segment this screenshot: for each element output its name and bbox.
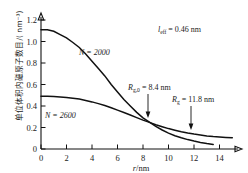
x-tick-label-2: 2 (64, 153, 68, 163)
rg0-value: = 8.4 nm (140, 83, 172, 92)
x-tick-label-12: 12 (190, 153, 199, 163)
chart-figure: 单位体积内磁原子数目/( nm⁻³) 0 0.2 0.4 0.6 0.8 1.0 (0, 0, 248, 173)
x-tick-label-8: 8 (141, 153, 145, 163)
x-axis-label: r/nm (133, 163, 150, 173)
l-eff-value: = 0.46 nm (166, 25, 202, 34)
chart-canvas: 0 0.2 0.4 0.6 0.8 1.0 1.2 0 2 4 6 8 10 (0, 0, 248, 173)
x-tick-label-6: 6 (115, 153, 119, 163)
y-tick-label-0.6: 0.6 (26, 80, 37, 90)
y-ticks-group (41, 20, 46, 149)
y-tick-label-0.4: 0.4 (26, 101, 37, 111)
annotation-rg: Rg = 11.8 nm (171, 95, 215, 105)
y-tick-label-0.8: 0.8 (26, 58, 37, 68)
y-tick-labels: 0 0.2 0.4 0.6 0.8 1.0 1.2 (26, 15, 37, 154)
y-tick-label-0: 0 (33, 144, 37, 154)
curve-label-n2000-text: N = 2000 (78, 48, 110, 57)
y-tick-label-0.2: 0.2 (26, 123, 37, 133)
x-ticks-group (41, 145, 220, 150)
arrow-rg (189, 106, 194, 130)
rg-value: = 11.8 nm (180, 95, 215, 104)
curve-label-n2600-text: N = 2600 (44, 111, 76, 120)
x-tick-labels: 0 2 4 6 8 10 12 14 (39, 153, 225, 163)
x-tick-label-14: 14 (215, 153, 224, 163)
arrow-rg0 (146, 94, 151, 118)
curve-label-n2000: N = 2000 (78, 48, 110, 57)
curve-label-n2600: N = 2600 (44, 111, 76, 120)
x-tick-label-0: 0 (39, 153, 43, 163)
y-tick-label-1.2: 1.2 (26, 15, 37, 25)
y-axis-label: 单位体积内磁原子数目/( nm⁻³) (13, 0, 24, 136)
annotation-l-eff: leff = 0.46 nm (158, 25, 202, 35)
x-tick-label-4: 4 (90, 153, 95, 163)
annotation-rg0: Rg,0 = 8.4 nm (127, 83, 171, 93)
y-tick-label-1.0: 1.0 (26, 37, 37, 47)
x-tick-label-10: 10 (164, 153, 173, 163)
